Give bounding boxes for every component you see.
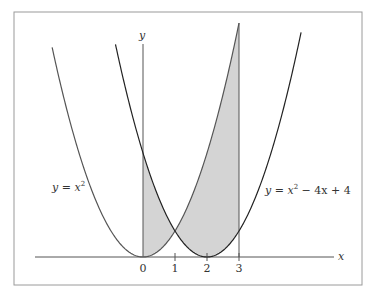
curves <box>52 23 301 257</box>
label-x-squared: y = x2 <box>51 180 85 194</box>
tick-label: 3 <box>236 262 243 275</box>
tick-label: 2 <box>204 262 211 275</box>
x-axis-label: x <box>338 250 345 263</box>
shaded-region <box>143 23 239 257</box>
shaded-area <box>143 23 239 257</box>
label-shifted-parabola: y = x2 − 4x + 4 <box>264 183 351 197</box>
figure: 0123 x y y = x2 y = x2 − 4x + 4 <box>0 0 371 293</box>
x-ticks: 0123 <box>140 253 243 275</box>
tick-label: 0 <box>140 262 147 275</box>
y-axis-label: y <box>138 29 146 42</box>
tick-label: 1 <box>172 262 179 275</box>
